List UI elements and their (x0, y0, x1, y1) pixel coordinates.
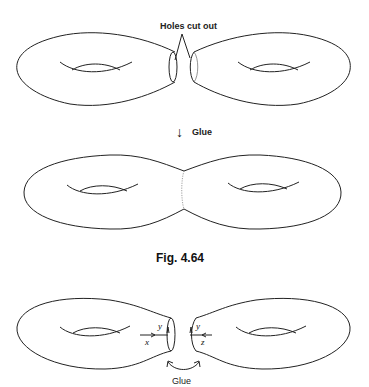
double-torus (24, 155, 341, 229)
down-arrow-icon: ↓ (176, 124, 183, 140)
top-left-torus (17, 33, 177, 106)
right-z-label: z (200, 337, 205, 347)
glue-arrow-step: ↓ Glue (176, 124, 212, 140)
bottom-right-torus (190, 298, 350, 369)
top-right-torus (190, 33, 350, 106)
right-y-label: y (195, 321, 200, 331)
left-y-label: y (157, 321, 162, 331)
diagram-canvas: Holes cut out ↓ Glue Fig. 4.64 y x y z (0, 0, 369, 387)
glue-label: Glue (192, 127, 212, 137)
holes-cut-out-label: Holes cut out (160, 21, 217, 31)
glue-curved-arrow (167, 361, 200, 370)
figure-caption: Fig. 4.64 (156, 251, 204, 265)
bottom-left-torus (17, 298, 175, 369)
bottom-glue-label: Glue (172, 376, 191, 386)
holes-cut-out-callout: Holes cut out (160, 21, 217, 60)
left-x-label: x (144, 337, 149, 347)
